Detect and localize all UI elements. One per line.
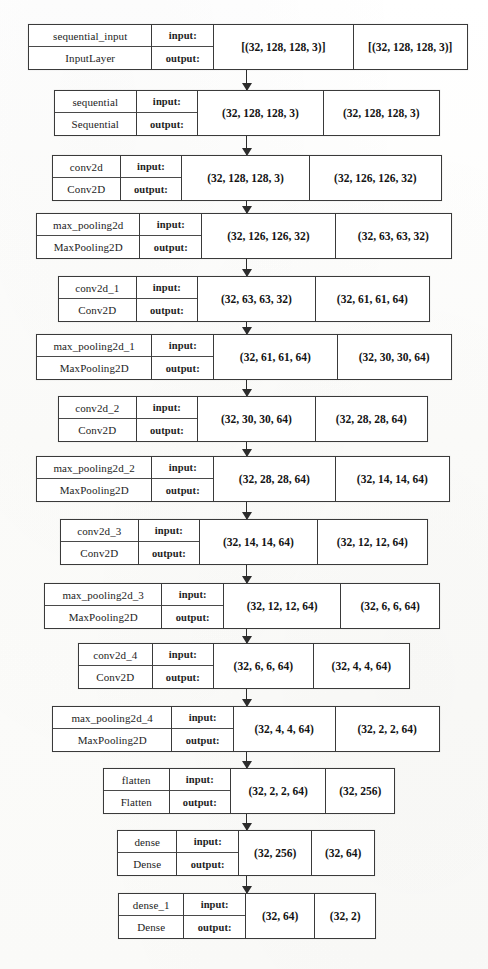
layer-class-name: MaxPooling2D bbox=[37, 479, 151, 501]
output-shape-value: (32, 6, 6, 64) bbox=[341, 584, 439, 628]
layer-class-name: Dense bbox=[119, 916, 183, 938]
input-shape-value: (32, 128, 128, 3) bbox=[198, 91, 323, 135]
layer-name: sequential_input bbox=[29, 25, 151, 47]
io-label-column: input:output: bbox=[137, 91, 199, 135]
input-label: input: bbox=[139, 520, 200, 542]
layer-name-column: max_pooling2d_3MaxPooling2D bbox=[45, 584, 162, 628]
layer-name: conv2d_3 bbox=[61, 520, 138, 542]
output-shape-value: (32, 63, 63, 32) bbox=[336, 214, 451, 258]
layer-name-column: max_pooling2d_2MaxPooling2D bbox=[37, 457, 152, 501]
layer-node-dense[interactable]: denseDenseinput:output:(32, 256)(32, 64) bbox=[117, 830, 375, 876]
input-label: input: bbox=[137, 91, 198, 113]
layer-name: dense bbox=[118, 831, 176, 853]
arrow-max_pooling2d_1-to-conv2d_2 bbox=[246, 380, 247, 396]
layer-name: dense_1 bbox=[119, 894, 183, 916]
input-label: input: bbox=[140, 214, 201, 236]
layer-name: max_pooling2d_4 bbox=[53, 707, 171, 729]
arrow-sequential_input-to-sequential bbox=[246, 70, 247, 90]
layer-node-conv2d_1[interactable]: conv2d_1Conv2Dinput:output:(32, 63, 63, … bbox=[58, 276, 430, 322]
output-label: output: bbox=[170, 791, 231, 813]
layer-name-column: flattenFlatten bbox=[104, 769, 170, 813]
input-label: input: bbox=[162, 584, 223, 606]
io-label-column: input:output: bbox=[184, 894, 245, 938]
layer-node-max_pooling2d_2[interactable]: max_pooling2d_2MaxPooling2Dinput:output:… bbox=[36, 456, 450, 502]
output-shape-value: (32, 14, 14, 64) bbox=[336, 457, 449, 501]
output-shape-value: (32, 28, 28, 64) bbox=[316, 397, 427, 441]
layer-name-column: conv2dConv2D bbox=[53, 156, 121, 200]
output-label: output: bbox=[121, 178, 182, 200]
arrow-conv2d_4-to-max_pooling2d_4 bbox=[246, 689, 247, 706]
layer-name: conv2d_1 bbox=[59, 277, 136, 299]
layer-class-name: InputLayer bbox=[29, 47, 151, 69]
output-label: output: bbox=[162, 606, 223, 628]
input-label: input: bbox=[172, 707, 233, 729]
input-shape-value: (32, 128, 128, 3) bbox=[182, 156, 309, 200]
layer-node-dense_1[interactable]: dense_1Denseinput:output:(32, 64)(32, 2) bbox=[118, 893, 376, 939]
output-label: output: bbox=[153, 666, 214, 688]
input-label: input: bbox=[152, 335, 213, 357]
layer-name: max_pooling2d_3 bbox=[45, 584, 161, 606]
layer-node-conv2d_3[interactable]: conv2d_3Conv2Dinput:output:(32, 14, 14, … bbox=[60, 519, 428, 565]
output-shape-value: (32, 64) bbox=[312, 831, 374, 875]
output-label: output: bbox=[152, 47, 213, 69]
input-shape-value: (32, 30, 30, 64) bbox=[198, 397, 315, 441]
input-shape-value: (32, 64) bbox=[246, 894, 316, 938]
layer-class-name: Flatten bbox=[104, 791, 169, 813]
output-shape-value: (32, 4, 4, 64) bbox=[314, 644, 409, 688]
output-shape-value: (32, 61, 61, 64) bbox=[316, 277, 429, 321]
output-shape-value: (32, 30, 30, 64) bbox=[338, 335, 451, 379]
layer-class-name: Conv2D bbox=[79, 666, 152, 688]
input-shape-value: (32, 61, 61, 64) bbox=[214, 335, 337, 379]
input-label: input: bbox=[184, 894, 244, 916]
output-shape-value: (32, 256) bbox=[326, 769, 394, 813]
layer-name: conv2d_2 bbox=[59, 397, 136, 419]
layer-node-sequential_input[interactable]: sequential_inputInputLayerinput:output:[… bbox=[28, 24, 468, 70]
layer-name-column: conv2d_4Conv2D bbox=[79, 644, 153, 688]
io-label-column: input:output: bbox=[162, 584, 224, 628]
layer-node-max_pooling2d_1[interactable]: max_pooling2d_1MaxPooling2Dinput:output:… bbox=[36, 334, 452, 380]
layer-node-flatten[interactable]: flattenFlatteninput:output:(32, 2, 2, 64… bbox=[103, 768, 395, 814]
layer-class-name: MaxPooling2D bbox=[53, 729, 171, 751]
io-label-column: input:output: bbox=[172, 707, 234, 751]
io-label-column: input:output: bbox=[152, 335, 214, 379]
input-shape-value: (32, 4, 4, 64) bbox=[234, 707, 336, 751]
io-label-column: input:output: bbox=[140, 214, 202, 258]
layer-node-max_pooling2d_4[interactable]: max_pooling2d_4MaxPooling2Dinput:output:… bbox=[52, 706, 440, 752]
io-label-column: input:output: bbox=[137, 397, 199, 441]
layer-name: flatten bbox=[104, 769, 169, 791]
layer-node-max_pooling2d[interactable]: max_pooling2dMaxPooling2Dinput:output:(3… bbox=[36, 213, 452, 259]
layer-node-conv2d_2[interactable]: conv2d_2Conv2Dinput:output:(32, 30, 30, … bbox=[58, 396, 428, 442]
arrow-max_pooling2d_2-to-conv2d_3 bbox=[246, 502, 247, 519]
output-shape-value: (32, 2, 2, 64) bbox=[336, 707, 439, 751]
model-architecture-diagram: sequential_inputInputLayerinput:output:[… bbox=[0, 0, 488, 969]
layer-node-max_pooling2d_3[interactable]: max_pooling2d_3MaxPooling2Dinput:output:… bbox=[44, 583, 440, 629]
layer-name-column: max_pooling2d_1MaxPooling2D bbox=[37, 335, 152, 379]
output-label: output: bbox=[139, 542, 200, 564]
io-label-column: input:output: bbox=[170, 769, 232, 813]
io-label-column: input:output: bbox=[139, 520, 201, 564]
layer-node-conv2d_4[interactable]: conv2d_4Conv2Dinput:output:(32, 6, 6, 64… bbox=[78, 643, 410, 689]
layer-node-conv2d[interactable]: conv2dConv2Dinput:output:(32, 128, 128, … bbox=[52, 155, 442, 201]
layer-name: max_pooling2d bbox=[37, 214, 139, 236]
layer-name-column: sequentialSequential bbox=[55, 91, 137, 135]
io-label-column: input:output: bbox=[137, 277, 199, 321]
input-label: input: bbox=[152, 457, 213, 479]
output-shape-value: [(32, 128, 128, 3)] bbox=[354, 25, 468, 69]
input-shape-value: [(32, 128, 128, 3)] bbox=[214, 25, 353, 69]
output-shape-value: (32, 128, 128, 3) bbox=[324, 91, 439, 135]
io-label-column: input:output: bbox=[153, 644, 215, 688]
arrow-max_pooling2d_4-to-flatten bbox=[246, 752, 247, 768]
layer-node-sequential[interactable]: sequentialSequentialinput:output:(32, 12… bbox=[54, 90, 440, 136]
arrow-sequential-to-conv2d bbox=[246, 136, 247, 155]
layer-class-name: MaxPooling2D bbox=[45, 606, 161, 628]
arrow-conv2d_3-to-max_pooling2d_3 bbox=[246, 565, 247, 583]
arrow-dense-to-dense_1 bbox=[246, 876, 247, 893]
layer-name: sequential bbox=[55, 91, 136, 113]
layer-name-column: conv2d_2Conv2D bbox=[59, 397, 137, 441]
layer-name-column: conv2d_1Conv2D bbox=[59, 277, 137, 321]
output-label: output: bbox=[137, 113, 198, 135]
output-label: output: bbox=[137, 299, 198, 321]
input-shape-value: (32, 2, 2, 64) bbox=[231, 769, 326, 813]
output-shape-value: (32, 2) bbox=[315, 894, 375, 938]
output-label: output: bbox=[137, 419, 198, 441]
